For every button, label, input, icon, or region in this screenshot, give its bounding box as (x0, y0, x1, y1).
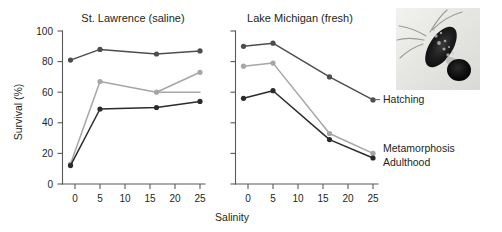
x-tick-label-25: 25 (194, 193, 206, 204)
survival-salinity-figure: Survival (%) 0 20 40 60 80 100 St. Lawre… (0, 0, 502, 232)
datapoint-hatching-lm-1 (270, 41, 275, 46)
panel-title-lake-michigan: Lake Michigan (fresh) (247, 12, 353, 24)
datapoint-metamorphosis-lm-3 (370, 151, 375, 156)
x-tick-label-lm-25: 25 (367, 193, 379, 204)
datapoint-hatching-lm-0 (241, 44, 246, 49)
datapoint-hatching-lm-2 (327, 74, 332, 79)
micrograph-head (447, 59, 471, 81)
datapoint-hatching-sl-0 (68, 58, 73, 63)
datapoint-hatching-sl-3 (197, 48, 202, 53)
datapoint-adulthood-sl-0 (68, 163, 73, 168)
larva-micrograph (396, 8, 480, 90)
chart-svg: Survival (%) 0 20 40 60 80 100 St. Lawre… (0, 0, 502, 232)
x-tick-label-15: 15 (144, 193, 156, 204)
datapoint-metamorphosis-lm-2 (327, 131, 332, 136)
y-tick-label-60: 60 (42, 87, 54, 98)
y-tick-label-0: 0 (47, 179, 53, 190)
datapoint-metamorphosis-sl-2 (154, 90, 159, 95)
datapoint-hatching-sl-1 (97, 47, 102, 52)
x-tick-label-lm-5: 5 (270, 193, 276, 204)
datapoint-metamorphosis-lm-0 (241, 64, 246, 69)
x-tick-label-lm-10: 10 (292, 193, 304, 204)
datapoint-metamorphosis-sl-3 (197, 70, 202, 75)
x-tick-label-10: 10 (119, 193, 131, 204)
datapoint-hatching-sl-2 (154, 51, 159, 56)
datapoint-metamorphosis-sl-1 (97, 79, 102, 84)
x-tick-label-5: 5 (97, 193, 103, 204)
datapoint-adulthood-sl-2 (154, 105, 159, 110)
y-tick-label-40: 40 (42, 117, 54, 128)
datapoint-adulthood-lm-0 (241, 96, 246, 101)
datapoint-adulthood-lm-1 (270, 88, 275, 93)
x-tick-label-lm-20: 20 (342, 193, 354, 204)
y-tick-label-80: 80 (42, 56, 54, 67)
y-tick-label-20: 20 (42, 148, 54, 159)
series-label-hatching: Hatching (383, 93, 425, 105)
datapoint-metamorphosis-lm-1 (270, 61, 275, 66)
series-label-metamorphosis: Metamorphosis (383, 142, 455, 154)
datapoint-adulthood-lm-3 (370, 155, 375, 160)
x-axis-label: Salinity (215, 211, 250, 223)
x-tick-label-lm-0: 0 (245, 193, 251, 204)
y-axis-label: Survival (%) (12, 84, 24, 141)
x-tick-label-lm-15: 15 (317, 193, 329, 204)
datapoint-adulthood-sl-3 (197, 99, 202, 104)
panel-title-st-lawrence: St. Lawrence (saline) (81, 12, 184, 24)
datapoint-adulthood-lm-2 (327, 137, 332, 142)
y-tick-label-100: 100 (36, 26, 53, 37)
datapoint-adulthood-sl-1 (97, 106, 102, 111)
x-tick-label-20: 20 (169, 193, 181, 204)
x-tick-label-0: 0 (72, 193, 78, 204)
series-label-adulthood: Adulthood (383, 156, 430, 168)
